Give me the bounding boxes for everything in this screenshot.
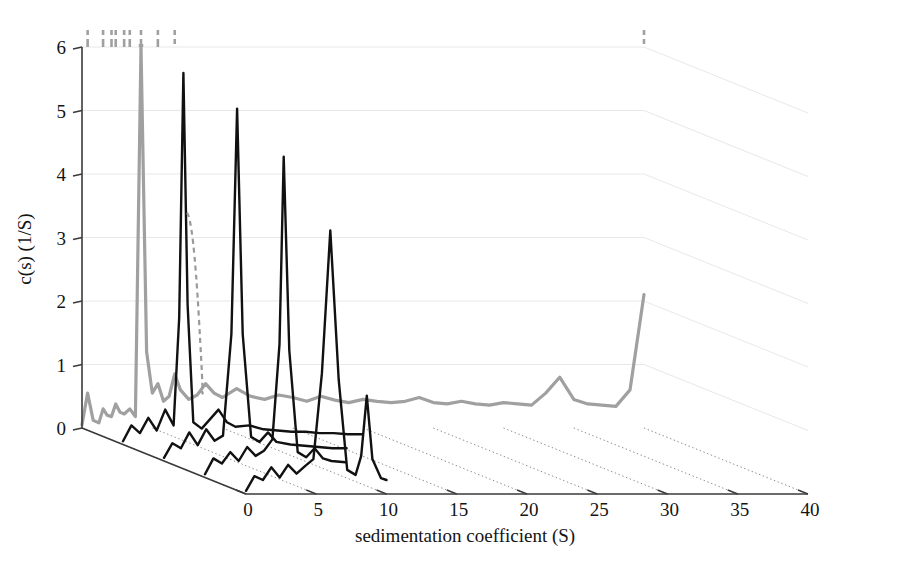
- x-tick-label: 20: [520, 499, 539, 520]
- x-tick-label: 40: [801, 499, 820, 520]
- x-axis-tick-labels: 0510152025303540: [243, 499, 819, 520]
- y-tick-label: 4: [57, 164, 67, 185]
- data-series-layer: [82, 30, 644, 491]
- y-tick-label: 2: [57, 291, 67, 312]
- x-tick-label: 35: [730, 499, 749, 520]
- y-tick-label: 3: [57, 228, 67, 249]
- y-tick-label: 5: [57, 101, 67, 122]
- x-tick-label: 5: [314, 499, 324, 520]
- x-tick-label: 10: [379, 499, 398, 520]
- figure-canvas: 6543210 0510152025303540 c(s) (1/S) sedi…: [0, 0, 900, 574]
- x-axis-title: sedimentation coefficient (S): [355, 525, 575, 547]
- y-axis-title-wrap: c(s) (1/S): [10, 172, 40, 332]
- y-tick-label: 6: [57, 37, 67, 58]
- floor-depth-lines: [82, 428, 808, 494]
- y-tick-label: 0: [57, 418, 67, 439]
- x-tick-label: 15: [449, 499, 468, 520]
- x-tick-label: 30: [660, 499, 679, 520]
- y-tick-label: 1: [57, 355, 67, 376]
- y-axis-title: c(s) (1/S): [14, 168, 36, 330]
- y-axis-tick-labels: 6543210: [57, 37, 67, 439]
- waterfall-plot-svg: 6543210 0510152025303540: [0, 0, 900, 574]
- x-tick-label: 0: [243, 499, 253, 520]
- x-tick-label: 25: [590, 499, 609, 520]
